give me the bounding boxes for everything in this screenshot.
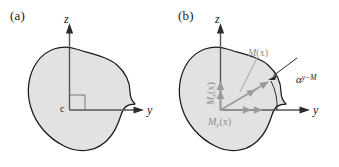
z-axis-label-b: z <box>215 12 220 27</box>
cross-section-blob-a <box>28 47 135 151</box>
panel-a-graphic <box>0 0 170 167</box>
angle-label: αy−M <box>296 73 316 85</box>
figure-container: (a) c z y (b) <box>0 0 339 167</box>
origin-label-a: c <box>60 104 64 114</box>
y-axis-arrowhead-a <box>134 106 145 113</box>
angle-label-superscript: y−M <box>302 73 317 82</box>
my-label-arg: (x) <box>219 116 231 127</box>
my-label: My(x) <box>208 116 231 129</box>
mz-label: Mz(x) <box>205 82 218 105</box>
cross-section-blob-b <box>179 47 286 151</box>
panel-b: (b) <box>169 0 339 167</box>
y-axis-arrowhead-b <box>300 106 311 113</box>
angle-pointer-line <box>273 58 297 76</box>
z-axis-label-a: z <box>64 12 69 27</box>
mz-label-arg: (x) <box>205 82 216 94</box>
mz-label-base: M <box>205 97 216 105</box>
mz-label-sub: z <box>210 94 218 97</box>
y-axis-label-a: y <box>147 103 152 118</box>
m-resultant-label: M(x) <box>248 47 268 58</box>
y-axis-label-b: y <box>313 103 318 118</box>
panel-a: (a) c z y <box>0 0 170 167</box>
m-resultant-label-arg: (x) <box>256 47 268 58</box>
